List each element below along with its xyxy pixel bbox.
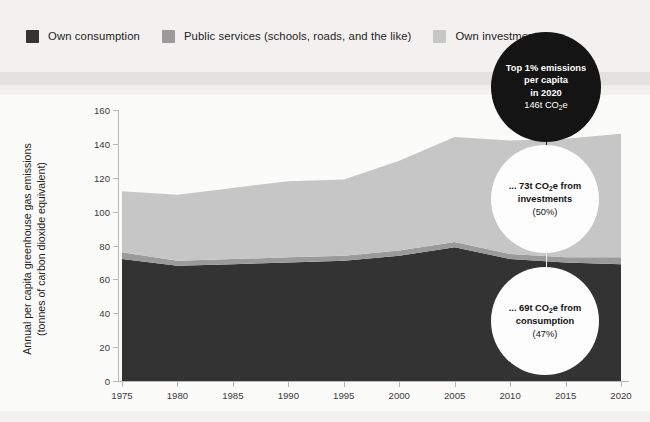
- x-tick-label: 2005: [444, 390, 465, 401]
- x-tick-label: 1975: [111, 390, 132, 401]
- legend-item-public-services[interactable]: Public services (schools, roads, and the…: [162, 30, 412, 43]
- y-tick-mark: [113, 178, 118, 179]
- y-tick-label: 0: [74, 376, 110, 387]
- x-tick-mark: [621, 382, 622, 387]
- total-value-pre: 146t CO: [524, 100, 559, 110]
- y-tick-label: 120: [74, 172, 110, 183]
- x-tick-mark: [233, 382, 234, 387]
- y-tick-mark: [113, 212, 118, 213]
- x-tick-mark: [177, 382, 178, 387]
- y-tick-mark: [113, 144, 118, 145]
- x-tick-mark: [288, 382, 289, 387]
- x-tick-mark: [455, 382, 456, 387]
- total-line4: 146t CO2e: [524, 100, 568, 110]
- investments-value-sub: 2: [549, 185, 553, 192]
- square-swatch-icon: [26, 30, 39, 43]
- y-tick-label: 100: [74, 206, 110, 217]
- annotation-bubble-total: Top 1% emissions per capita in 2020 146t…: [491, 32, 601, 142]
- investments-line3: (50%): [533, 207, 558, 217]
- total-line2: per capita: [524, 75, 568, 85]
- x-tick-label: 1985: [222, 390, 243, 401]
- total-value-sub: 2: [559, 104, 563, 111]
- square-swatch-icon: [433, 30, 446, 43]
- chart-panel: Annual per capita greenhouse gas emissio…: [0, 95, 650, 411]
- x-tick-mark: [566, 382, 567, 387]
- chart-legend: Own consumption Public services (schools…: [26, 26, 566, 46]
- x-tick-mark: [399, 382, 400, 387]
- total-value-post: e: [563, 100, 568, 110]
- annotation-text-consumption: ... 69t CO2e from consumption (47%): [500, 302, 590, 340]
- x-tick-mark: [344, 382, 345, 387]
- square-swatch-icon: [162, 30, 175, 43]
- annotation-text-investments: ... 73t CO2e from investments (50%): [500, 180, 590, 218]
- x-tick-mark: [122, 382, 123, 387]
- y-tick-label: 60: [74, 274, 110, 285]
- consumption-value-sub: 2: [549, 307, 553, 314]
- consumption-line3: (47%): [533, 329, 558, 339]
- y-tick-mark: [113, 110, 118, 111]
- x-tick-label: 2010: [499, 390, 520, 401]
- consumption-line2: consumption: [516, 316, 574, 326]
- x-axis-line: [118, 381, 629, 382]
- y-tick-mark: [113, 279, 118, 280]
- investments-value-pre: ... 73t CO: [509, 181, 549, 191]
- consumption-value-pre: ... 69t CO: [509, 303, 549, 313]
- annotation-text-total: Top 1% emissions per capita in 2020 146t…: [497, 62, 595, 113]
- y-tick-label: 20: [74, 342, 110, 353]
- investments-line2: investments: [518, 194, 572, 204]
- x-tick-label: 1980: [167, 390, 188, 401]
- legend-label: Public services (schools, roads, and the…: [184, 30, 412, 42]
- y-tick-label: 160: [74, 105, 110, 116]
- y-tick-mark: [113, 246, 118, 247]
- x-tick-label: 2000: [389, 390, 410, 401]
- legend-label: Own consumption: [48, 30, 140, 42]
- investments-value-post: e from: [553, 181, 581, 191]
- annotation-bubble-investments: ... 73t CO2e from investments (50%): [491, 145, 599, 253]
- consumption-value-post: e from: [553, 303, 581, 313]
- x-tick-mark: [510, 382, 511, 387]
- total-line1: Top 1% emissions: [506, 63, 586, 73]
- legend-item-own-consumption[interactable]: Own consumption: [26, 30, 140, 43]
- y-tick-label: 40: [74, 308, 110, 319]
- y-tick-label: 80: [74, 240, 110, 251]
- total-line3: in 2020: [530, 88, 562, 98]
- annotation-bubble-consumption: ... 69t CO2e from consumption (47%): [491, 267, 599, 375]
- x-tick-label: 2015: [555, 390, 576, 401]
- x-tick-label: 1995: [333, 390, 354, 401]
- chart-root: Own consumption Public services (schools…: [0, 0, 650, 422]
- y-tick-mark: [113, 313, 118, 314]
- y-axis-line: [118, 110, 119, 382]
- y-tick-mark: [113, 381, 118, 382]
- x-tick-label: 2020: [610, 390, 631, 401]
- x-tick-label: 1990: [278, 390, 299, 401]
- y-tick-label: 140: [74, 138, 110, 149]
- y-tick-mark: [113, 347, 118, 348]
